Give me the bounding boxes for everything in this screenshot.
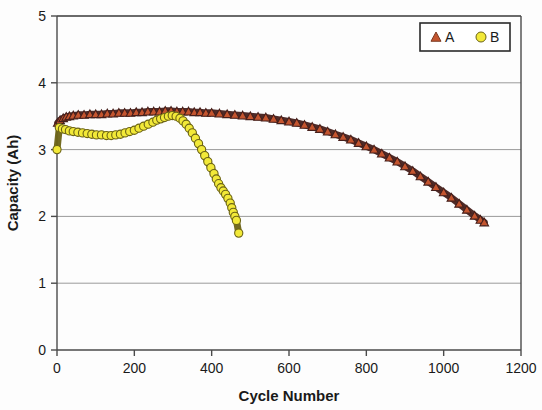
- x-tick-label: 800: [355, 360, 379, 376]
- chart-figure: 012345 020040060080010001200 AB Cycle Nu…: [0, 0, 542, 410]
- x-tick-label: 1200: [505, 360, 536, 376]
- y-tick-label: 3: [38, 142, 46, 158]
- y-tick-label: 4: [38, 75, 46, 91]
- y-tick-label: 1: [38, 275, 46, 291]
- y-axis-title: Capacity (Ah): [4, 135, 21, 232]
- legend-marker-circle-B: [476, 32, 486, 42]
- x-tick-label: 600: [277, 360, 301, 376]
- capacity-vs-cycle-number-chart: 012345 020040060080010001200 AB Cycle Nu…: [0, 0, 542, 410]
- data-point-B: [235, 229, 243, 237]
- y-tick-label: 2: [38, 208, 46, 224]
- y-tick-label: 0: [38, 342, 46, 358]
- data-point-B: [232, 216, 240, 224]
- chart-legend: AB: [420, 23, 510, 51]
- x-tick-label: 400: [200, 360, 224, 376]
- legend-label-B: B: [490, 29, 499, 45]
- x-tick-label: 1000: [428, 360, 459, 376]
- x-axis-title: Cycle Number: [239, 387, 340, 404]
- x-tick-label: 0: [53, 360, 61, 376]
- x-tick-label: 200: [123, 360, 147, 376]
- legend-label-A: A: [445, 29, 455, 45]
- y-tick-label: 5: [38, 8, 46, 24]
- data-point-B: [53, 146, 61, 154]
